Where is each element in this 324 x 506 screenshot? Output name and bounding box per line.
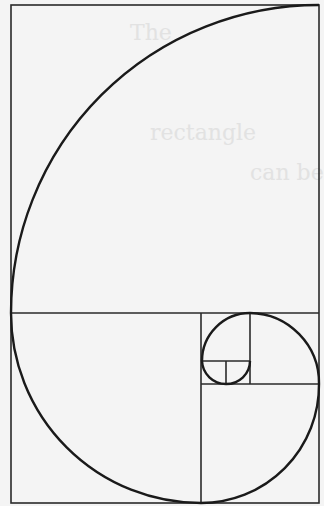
- grid-lines: [11, 5, 319, 503]
- outer-rectangle: [11, 5, 319, 503]
- golden-spiral-diagram: [0, 0, 324, 506]
- spiral-curve: [11, 5, 319, 503]
